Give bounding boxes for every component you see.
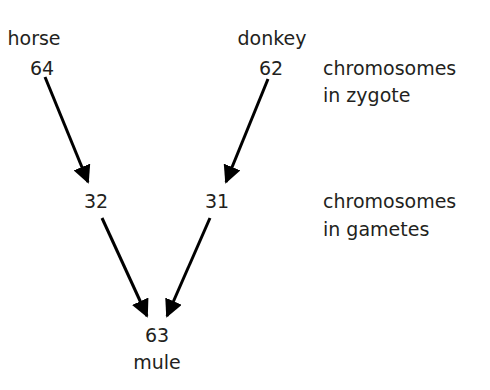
zygote-row-label-line2: in zygote: [323, 84, 410, 106]
donkey-gamete-count: 31: [205, 190, 229, 212]
gametes-row-label-line2: in gametes: [323, 218, 429, 240]
mule-label: mule: [133, 351, 181, 373]
horse-gamete-count: 32: [84, 190, 108, 212]
horse-zygote-count: 64: [30, 57, 54, 79]
arrow-horse-to-gamete: [45, 77, 88, 182]
arrow-donkey-to-gamete: [226, 79, 268, 182]
gametes-row-label-line1: chromosomes: [323, 190, 456, 212]
zygote-row-label-line1: chromosomes: [323, 57, 456, 79]
donkey-zygote-count: 62: [259, 57, 283, 79]
donkey-label: donkey: [238, 27, 307, 49]
arrow-horse-gamete-to-mule: [102, 218, 147, 316]
arrow-donkey-gamete-to-mule: [167, 218, 210, 316]
mule-count: 63: [145, 324, 169, 346]
horse-label: horse: [7, 27, 60, 49]
